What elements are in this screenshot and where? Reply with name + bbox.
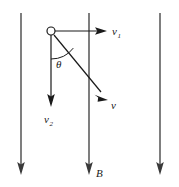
theta-label: θ — [56, 58, 62, 70]
diagram-canvas: v1 v2 v θ B — [0, 0, 179, 187]
right-field-line — [156, 13, 164, 175]
v2-label: v2 — [44, 113, 53, 128]
charged-particle — [47, 27, 55, 35]
v2-label-symbol: v — [44, 113, 49, 125]
physics-diagram: v1 v2 v θ B — [0, 0, 179, 187]
left-field-line — [17, 13, 25, 175]
velocity-component-horizontal — [55, 27, 107, 34]
field-lines-group — [17, 13, 164, 175]
velocity-resultant — [54, 35, 108, 102]
v1-label-symbol: v — [112, 25, 117, 37]
v-label: v — [111, 99, 116, 111]
v-arrowhead — [95, 95, 108, 102]
velocity-component-vertical — [47, 35, 55, 107]
middle-field-line — [85, 13, 93, 175]
v1-label-subscript: 1 — [117, 32, 121, 40]
v1-label: v1 — [112, 25, 121, 40]
v2-label-subscript: 2 — [49, 120, 53, 128]
magnetic-field-label: B — [96, 167, 103, 179]
